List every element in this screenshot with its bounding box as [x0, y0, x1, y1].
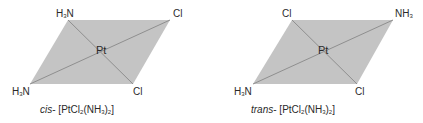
trans-bottom-left-ligand: H3N — [234, 86, 252, 97]
trans-bottom-right-ligand: Cl — [355, 86, 364, 97]
trans-top-right-ligand: NH3 — [395, 8, 413, 19]
cis-bottom-left-ligand: H3N — [12, 86, 30, 97]
trans-caption: trans- [PtCl2(NH3)2] — [251, 104, 335, 115]
cis-caption: cis- [PtCl2(NH3)2] — [40, 104, 114, 115]
cis-center-metal: Pt — [96, 45, 106, 56]
cis-bottom-right-ligand: Cl — [133, 86, 142, 97]
cis-top-left-ligand: H3N — [56, 8, 74, 19]
trans-center-metal: Pt — [318, 45, 328, 56]
trans-top-left-ligand: Cl — [282, 8, 291, 19]
cis-top-right-ligand: Cl — [173, 8, 182, 19]
